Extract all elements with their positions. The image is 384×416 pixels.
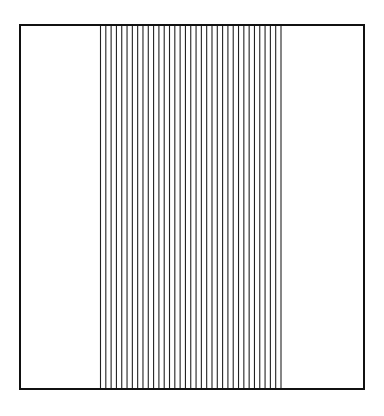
vertical-line-band bbox=[101, 25, 282, 389]
grating-diagram bbox=[0, 0, 384, 416]
outer-frame bbox=[20, 25, 364, 389]
